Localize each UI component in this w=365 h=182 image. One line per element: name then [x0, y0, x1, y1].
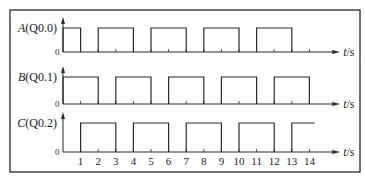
y-axis-arrow-icon	[61, 66, 65, 73]
tick-label: 11	[251, 155, 262, 167]
tick-label: 5	[148, 155, 154, 167]
tick-label: 10	[234, 155, 246, 167]
zero-label: 0	[55, 147, 60, 157]
t-axis-arrow-icon	[332, 102, 340, 106]
tick-label: 6	[166, 155, 172, 167]
signal-c: 0t/sC(Q0.2)1234567891011121314	[17, 112, 355, 167]
y-axis-arrow-icon	[61, 17, 65, 24]
waveform	[63, 77, 309, 104]
tick-label: 14	[304, 155, 316, 167]
tick-label: 1	[78, 155, 84, 167]
tick-label: 7	[183, 155, 189, 167]
t-unit-label: t/s	[343, 97, 355, 111]
y-axis-arrow-icon	[61, 112, 65, 119]
tick-label: 9	[219, 155, 225, 167]
zero-label: 0	[55, 47, 60, 57]
signal-label: C(Q0.2)	[17, 116, 57, 130]
t-axis-arrow-icon	[332, 50, 340, 54]
tick-label: 3	[113, 155, 119, 167]
signal-a: 0t/sA(Q0.0)	[17, 17, 355, 59]
t-unit-label: t/s	[343, 45, 355, 59]
tick-label: 2	[95, 155, 101, 167]
tick-label: 13	[286, 155, 298, 167]
tick-label: 4	[131, 155, 137, 167]
t-unit-label: t/s	[343, 145, 355, 159]
t-axis-arrow-icon	[332, 150, 340, 154]
signal-b: 0t/sB(Q0.1)	[18, 66, 355, 111]
signal-label: A(Q0.0)	[17, 21, 57, 35]
zero-label: 0	[55, 99, 60, 109]
signal-label: B(Q0.1)	[18, 70, 57, 84]
timing-diagram-canvas: 0t/sA(Q0.0)0t/sB(Q0.1)0t/sC(Q0.2)1234567…	[0, 0, 365, 182]
waveform	[81, 123, 315, 152]
tick-label: 12	[269, 155, 280, 167]
timing-diagram: 0t/sA(Q0.0)0t/sB(Q0.1)0t/sC(Q0.2)1234567…	[0, 0, 365, 182]
tick-label: 8	[201, 155, 207, 167]
signal-group: 0t/sA(Q0.0)0t/sB(Q0.1)0t/sC(Q0.2)1234567…	[17, 17, 355, 167]
waveform	[63, 28, 292, 52]
